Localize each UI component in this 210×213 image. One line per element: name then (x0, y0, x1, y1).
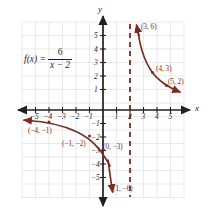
ytick-label-1: 1 (94, 86, 98, 94)
y-axis-label: y (98, 5, 102, 14)
xtick-label-neg4: −4 (44, 113, 53, 121)
ytick-label-neg5: −5 (91, 174, 100, 182)
xtick-label-1: 1 (115, 113, 119, 121)
ytick-label-neg1: −1 (91, 120, 100, 128)
ytick-label-neg4: −4 (91, 161, 100, 169)
axes (19, 16, 190, 205)
annotation-3-6: (3, 6) (141, 24, 157, 31)
ytick-label-5: 5 (94, 32, 98, 40)
xtick-label-neg3: −3 (57, 113, 66, 121)
xtick-label-2: 2 (128, 113, 132, 121)
xtick-label-4: 4 (155, 113, 159, 121)
annotation-4-3: (4, 3) (156, 66, 172, 73)
plot-canvas (0, 0, 210, 213)
formula-fraction: 6 x − 2 (48, 48, 72, 71)
formula-numerator: 6 (55, 48, 66, 58)
xtick-label-3: 3 (142, 113, 146, 121)
annotation-5-2: (5, 2) (168, 79, 184, 86)
ytick-label-3: 3 (94, 59, 98, 67)
ytick-label-2: 2 (94, 73, 98, 81)
xtick-label-neg5: −5 (30, 113, 39, 121)
ytick-label-4: 4 (94, 46, 98, 54)
xtick-label-5: 5 (169, 113, 173, 121)
xtick-label-neg2: −2 (71, 113, 80, 121)
annotation-0-neg3: (0, −3) (103, 144, 123, 151)
point-4-3 (151, 71, 154, 74)
x-axis-label: x (195, 104, 199, 113)
function-graph-figure: f(x) = 6 x − 2 x y −5 −4 −3 −2 −1 1 2 3 … (0, 0, 210, 213)
function-formula: f(x) = 6 x − 2 (24, 48, 72, 71)
formula-lhs: f(x) = (24, 54, 46, 64)
annotation-neg4-neg1: (−4, −1) (28, 128, 52, 135)
formula-denominator: x − 2 (48, 61, 72, 71)
ytick-label-neg2: −2 (91, 134, 100, 142)
ytick-label-neg3: −3 (91, 147, 100, 155)
point-3-6 (136, 27, 139, 30)
annotation-neg1-neg2: (−1, −2) (62, 141, 86, 148)
annotation-1-neg6: (1, −6) (113, 186, 133, 193)
